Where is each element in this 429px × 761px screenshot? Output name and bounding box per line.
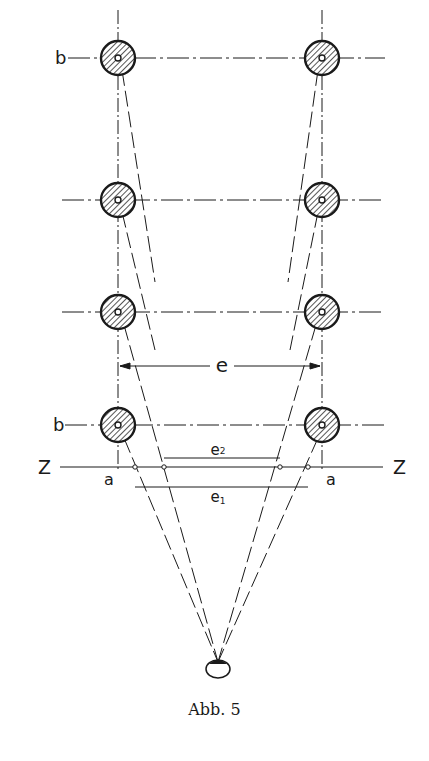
label-e1: e1	[211, 488, 226, 506]
columns	[101, 41, 339, 442]
label-a-left: a	[104, 470, 114, 489]
label-b-bottom: b	[53, 414, 64, 435]
label-b-top: b	[55, 47, 66, 68]
label-e: e	[216, 353, 228, 377]
label-z-right: Z	[393, 456, 406, 478]
label-z-left: Z	[38, 456, 51, 478]
label-e2: e2	[211, 441, 226, 459]
figure-caption: Abb. 5	[0, 700, 429, 719]
label-a-right: a	[326, 470, 336, 489]
perspective-diagram: e e2 e1 b b Z Z a a	[0, 0, 429, 761]
eye-icon	[206, 660, 230, 678]
